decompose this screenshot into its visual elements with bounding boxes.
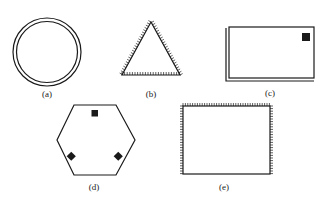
hatch-mark [180,74,183,75]
figure-canvas: (a) (b) (c) (d) (e) [0,0,320,203]
hatch-mark [132,50,135,51]
hatch-mark [140,37,143,38]
hatch-mark [126,62,129,63]
hatch-mark [143,30,146,31]
hatch-mark [127,59,130,60]
outer-circle [13,18,81,86]
hatch-mark [169,53,172,54]
hatch-mark [171,58,174,59]
hatch-mark [146,25,149,26]
hatch-mark [133,48,136,49]
hatch-mark [122,68,125,69]
rectangle [229,27,314,78]
marker-bottom-left [67,152,76,161]
hatch-mark [138,39,141,40]
hatch-mark [168,51,171,52]
hatch-mark [137,41,140,42]
label-c: (c) [265,88,275,98]
hatch-mark [170,55,173,56]
hatch-mark [154,26,157,27]
hatch-mark [165,46,168,47]
hatch-mark [131,52,134,53]
hatch-mark [155,28,158,29]
hatch-mark [174,62,177,63]
hatch-mark [151,21,154,22]
hatch-mark [130,55,133,56]
hatch-mark [153,23,156,24]
filled-square-marker [302,33,310,41]
hatch-mark [148,21,151,22]
hatch-mark [121,71,124,72]
hatch-mark [136,43,139,44]
marker-bottom-right [114,152,123,161]
panel-b: (b) [120,21,183,99]
label-d: (d) [89,182,100,192]
inner-circle [17,22,78,83]
panel-e: (e) [180,103,273,192]
hatch-mark [135,46,138,47]
hatch-mark [158,33,161,34]
hatch-mark [142,32,145,33]
panel-d: (d) [57,105,135,192]
triangle-hatch-marks [120,21,183,75]
hatch-mark [160,37,163,38]
hatch-mark [141,34,144,35]
marker-top [92,110,99,117]
hatch-mark [128,57,131,58]
hatch-mark [164,44,167,45]
hatch-mark [123,66,126,67]
label-a: (a) [42,89,52,99]
rectangle-hatch-marks [180,103,273,174]
hatch-mark [145,27,148,28]
hatch-mark [173,60,176,61]
label-e: (e) [219,182,229,192]
triangle [122,22,180,75]
hatch-mark [156,30,159,31]
panel-a: (a) [13,18,81,99]
hatch-mark [147,23,150,24]
hatch-mark [161,39,164,40]
hatch-mark [175,64,178,65]
hatch-mark [166,48,169,49]
hatch-mark [163,42,166,43]
hatch-mark [125,64,128,65]
hatch-mark [178,69,181,70]
rectangle-e [183,106,270,174]
hatch-mark [159,35,162,36]
hatch-mark [176,67,179,68]
rect-outer-edge [226,28,314,81]
label-b: (b) [146,89,157,99]
panel-c: (c) [226,27,314,98]
